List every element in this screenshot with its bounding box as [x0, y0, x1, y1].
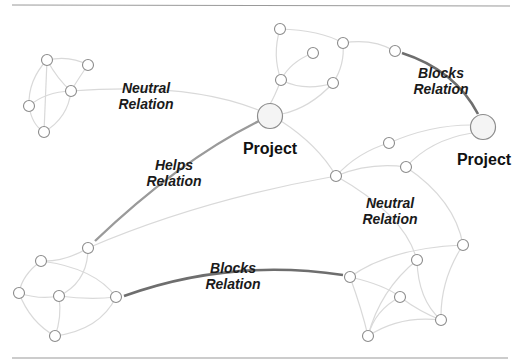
graph-node[interactable]: [83, 60, 94, 71]
project-node-right[interactable]: [471, 115, 496, 140]
graph-node[interactable]: [276, 75, 287, 86]
graph-node[interactable]: [363, 331, 374, 342]
cluster-top-left-edges: [29, 58, 88, 132]
relation-label-line1: Neutral: [122, 80, 171, 96]
graph-node[interactable]: [39, 127, 50, 138]
relation-label-helps: Helps Relation: [146, 157, 201, 189]
graph-node[interactable]: [345, 272, 356, 283]
graph-node[interactable]: [390, 46, 401, 57]
graph-node[interactable]: [458, 240, 469, 251]
graph-node[interactable]: [436, 315, 447, 326]
relation-label-line1: Blocks: [210, 260, 256, 276]
graph-node[interactable]: [338, 38, 349, 49]
graph-node[interactable]: [331, 171, 342, 182]
relation-label-line2: Relation: [146, 173, 201, 189]
graph-node[interactable]: [14, 288, 25, 299]
relation-label-line2: Relation: [205, 276, 260, 292]
graph-node[interactable]: [36, 256, 47, 267]
graph-node[interactable]: [275, 24, 286, 35]
graph-node[interactable]: [395, 292, 406, 303]
nodes: [14, 24, 469, 342]
relation-label-neutral-top: Neutral Relation: [118, 80, 173, 112]
graph-node[interactable]: [412, 255, 423, 266]
graph-node[interactable]: [83, 243, 94, 254]
relation-label-line2: Relation: [413, 81, 468, 97]
relation-label-neutral-bottom: Neutral Relation: [362, 195, 417, 227]
top-divider: [12, 5, 510, 6]
relation-graph: Project Project Neutral Relation Blocks …: [0, 0, 530, 362]
relation-label-line1: Helps: [155, 157, 193, 173]
cluster-top-middle-edges: [270, 29, 395, 114]
graph-node[interactable]: [401, 162, 412, 173]
project-label-center: Project: [243, 140, 298, 157]
cluster-right-edges: [336, 125, 472, 260]
graph-node[interactable]: [24, 101, 35, 112]
relation-label-line1: Neutral: [366, 195, 415, 211]
graph-node[interactable]: [66, 86, 77, 97]
project-node-center[interactable]: [258, 104, 283, 129]
relation-label-line1: Blocks: [418, 65, 464, 81]
graph-node[interactable]: [42, 55, 53, 66]
graph-node[interactable]: [308, 48, 319, 59]
graph-node[interactable]: [384, 138, 395, 149]
graph-node[interactable]: [50, 331, 61, 342]
relation-label-blocks-bottom: Blocks Relation: [205, 260, 260, 292]
graph-node[interactable]: [328, 78, 339, 89]
graph-node[interactable]: [111, 292, 122, 303]
relation-label-blocks-top: Blocks Relation: [413, 65, 468, 97]
relation-label-line2: Relation: [118, 96, 173, 112]
relation-label-line2: Relation: [362, 211, 417, 227]
graph-node[interactable]: [54, 291, 65, 302]
project-label-right: Project: [457, 151, 512, 168]
cluster-bottom-left-edges: [19, 248, 116, 336]
